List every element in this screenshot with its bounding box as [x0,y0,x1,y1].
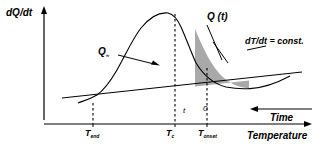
tick-label-t-onset: Tonset [198,129,217,138]
tick-label-t-end-symbol: T [85,128,91,138]
peak-area-label: Q (t) [207,12,228,22]
tick-label-t-c: Tc [166,129,174,138]
baseline-label: dT/dt = const. [245,37,304,46]
time-origin-label: 0 [203,105,207,113]
y-axis-label: dQ/dt [6,8,32,18]
figure-canvas: dQ/dt Q∞ Q (t) dT/dt = const. Time Tempe… [0,0,322,150]
q-infinity-leader-arrow [118,55,160,66]
tick-label-t-c-symbol: T [166,128,172,138]
shaded-area-qt [195,29,249,88]
time-axis-label: Time [270,113,293,123]
dtdt-leader-line [247,46,266,50]
total-heat-subscript: ∞ [106,52,110,58]
tick-label-t-end: Tend [85,129,99,138]
dqdt-curve [78,13,290,103]
time-tick-label: t [183,107,185,115]
tick-label-t-end-subscript: end [91,133,100,139]
tick-label-t-onset-symbol: T [198,128,204,138]
tick-label-t-onset-subscript: onset [204,133,217,139]
x-axis-label: Temperature [247,131,307,141]
total-heat-symbol: Q [98,46,106,57]
qt-leader-line [207,25,228,63]
thermogram-svg [0,0,322,150]
total-heat-label: Q∞ [98,47,109,57]
tick-label-t-c-subscript: c [172,133,175,139]
y-axis [41,6,47,120]
